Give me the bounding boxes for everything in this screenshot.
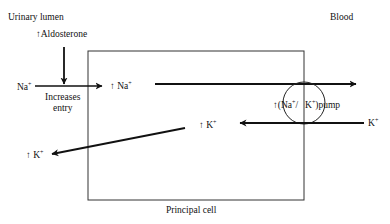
k-lumen-label: ↑ K+ — [26, 149, 43, 161]
k-blood-label: K+ — [368, 117, 378, 129]
principal-cell-box — [88, 51, 304, 200]
increases-entry-label-1: Increases — [45, 93, 80, 103]
na-inside-label: ↑ Na+ — [110, 80, 132, 92]
na-outside-label: Na+ — [17, 81, 31, 93]
pump-label: ↑(Na+/K+)pump — [273, 99, 340, 111]
increases-entry-label-2: entry — [53, 104, 73, 114]
k-secretion-arrow — [52, 128, 185, 154]
principal-cell-label: Principal cell — [166, 206, 216, 216]
blood-label: Blood — [330, 13, 353, 23]
urinary-lumen-label: Urinary lumen — [8, 13, 64, 23]
k-inside-label: ↑ K+ — [199, 119, 216, 131]
aldosterone-label: ↑Aldosterone — [36, 30, 87, 40]
